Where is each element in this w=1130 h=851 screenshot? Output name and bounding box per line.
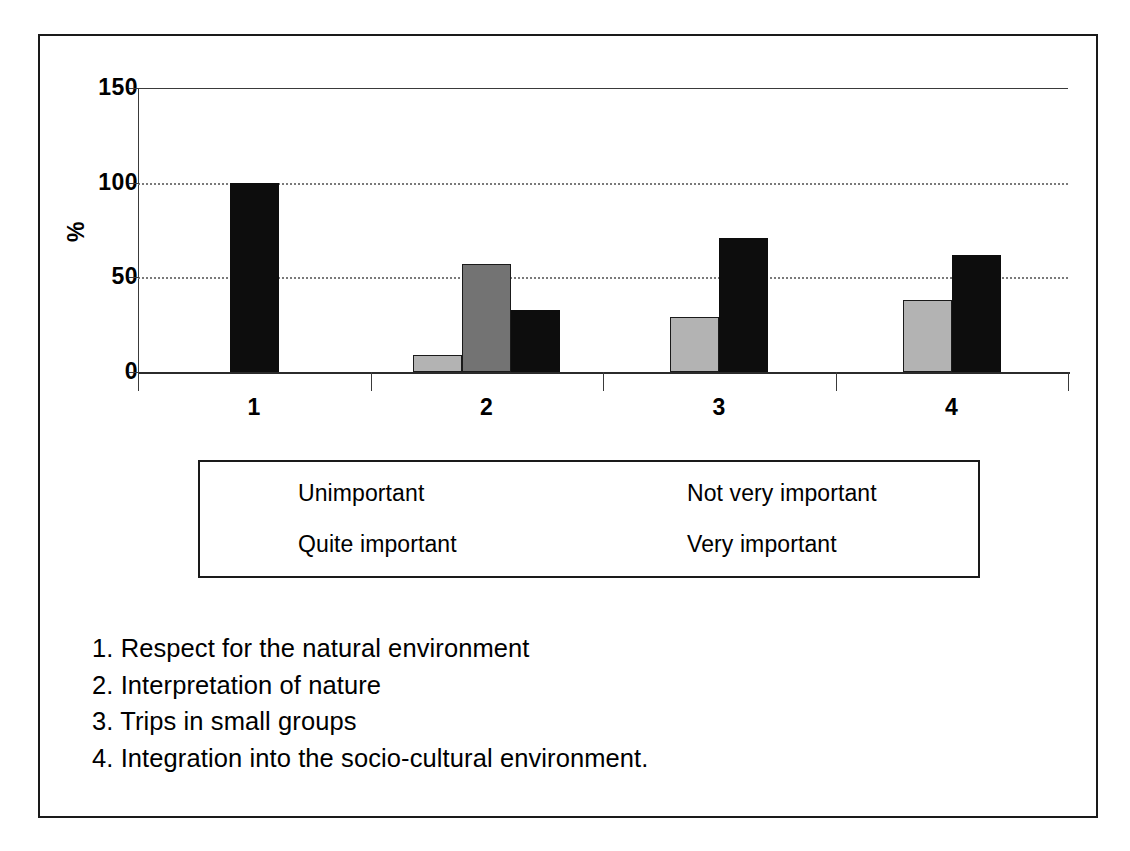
y-tick-label: 0 (68, 360, 138, 383)
bar-group (371, 88, 604, 372)
x-tick-mark (371, 372, 372, 391)
x-tick-mark (836, 372, 837, 391)
legend: UnimportantNot very importantQuite impor… (198, 460, 980, 578)
x-tick-mark (1068, 372, 1069, 391)
legend-label: Not very important (687, 480, 877, 507)
bar-group (836, 88, 1069, 372)
x-tick-mark (138, 372, 139, 391)
y-axis-tick-labels: 050100150 (60, 36, 138, 436)
bar (903, 300, 952, 372)
y-tick-label: 50 (68, 265, 138, 288)
legend-item: Quite important (200, 530, 589, 560)
legend-item: Not very important (589, 479, 978, 509)
figure-frame: % 050100150 1234 UnimportantNot very imp… (38, 34, 1098, 818)
plot-region: % 050100150 1234 (40, 36, 1100, 436)
cut-off-caption-text (0, 0, 1130, 6)
legend-item: Unimportant (200, 479, 589, 509)
caption-item: 1. Respect for the natural environment (92, 630, 1052, 667)
bar (719, 238, 768, 372)
bar-group (603, 88, 836, 372)
bar-group (138, 88, 371, 372)
legend-label: Very important (687, 531, 837, 558)
bar (670, 317, 719, 372)
legend-swatch-icon (643, 479, 669, 509)
legend-swatch-icon (254, 479, 280, 509)
caption-list: 1. Respect for the natural environment2.… (92, 630, 1052, 777)
caption-item: 2. Interpretation of nature (92, 667, 1052, 704)
legend-swatch-icon (643, 530, 669, 560)
bar (413, 355, 462, 372)
y-tick-label: 150 (68, 76, 138, 99)
x-tick-mark (603, 372, 604, 391)
legend-swatch-icon (254, 530, 280, 560)
y-tick-label: 100 (68, 171, 138, 194)
bars-layer (138, 88, 1068, 372)
caption-item: 4. Integration into the socio-cultural e… (92, 740, 1052, 777)
x-tick-label: 1 (194, 394, 314, 421)
bar (952, 255, 1001, 372)
legend-item: Very important (589, 530, 978, 560)
bar (230, 183, 279, 372)
caption-item: 3. Trips in small groups (92, 703, 1052, 740)
bar (462, 264, 511, 372)
legend-label: Quite important (298, 531, 457, 558)
bar (511, 310, 560, 372)
axes-area (138, 88, 1068, 372)
x-tick-label: 4 (892, 394, 1012, 421)
legend-label: Unimportant (298, 480, 424, 507)
x-tick-label: 3 (659, 394, 779, 421)
x-axis-line (138, 372, 1070, 374)
x-tick-label: 2 (427, 394, 547, 421)
